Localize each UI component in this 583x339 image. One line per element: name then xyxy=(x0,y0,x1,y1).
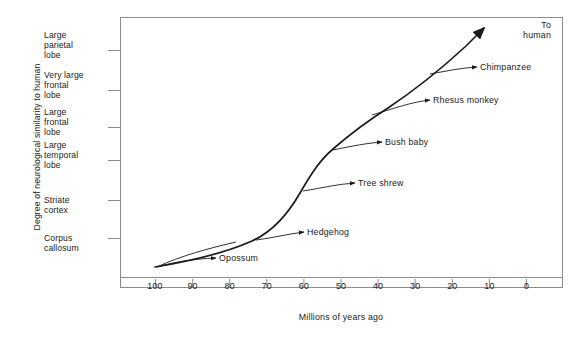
y-tick-label-line: Large xyxy=(44,140,110,150)
y-tick-label-line: lobe xyxy=(44,90,110,100)
y-tick-label-line: Striate xyxy=(44,195,110,205)
y-tick-label-very-large-frontal-lobe: Very large frontal lobe xyxy=(44,70,110,101)
x-tick-label-0: 0 xyxy=(512,281,542,291)
x-tick-label-50: 50 xyxy=(326,281,356,291)
annotation-label-tree-shrew: Tree shrew xyxy=(358,178,404,188)
x-tick-label-70: 70 xyxy=(252,281,282,291)
annotation-label-rhesus-monkey: Rhesus monkey xyxy=(433,95,499,105)
y-tick-label-line: lobe xyxy=(44,160,110,170)
leader-line-rhesus-monkey xyxy=(372,100,430,115)
y-tick-label-line: Corpus xyxy=(44,233,110,243)
x-tick-label-80: 80 xyxy=(215,281,245,291)
x-tick-label-100: 100 xyxy=(140,281,170,291)
y-tick-label-line: temporal xyxy=(44,150,110,160)
y-tick-label-line: callosum xyxy=(44,243,110,253)
y-tick-label-large-frontal-lobe: Large frontal lobe xyxy=(44,107,110,138)
y-tick-label-line: frontal xyxy=(44,117,110,127)
y-tick-label-large-parietal-lobe: Large parietal lobe xyxy=(44,30,110,61)
annotation-label-line: human xyxy=(503,30,551,40)
y-axis-title: Degree of neurological similarity to hum… xyxy=(32,22,42,272)
y-tick-label-line: lobe xyxy=(44,50,110,60)
annotation-label-chimpanzee: Chimpanzee xyxy=(480,62,531,72)
plot-frame xyxy=(121,18,563,278)
y-tick-label-striate-cortex: Striate cortex xyxy=(44,195,110,215)
x-tick-label-20: 20 xyxy=(437,281,467,291)
y-tick-label-line: cortex xyxy=(44,205,110,215)
x-tick-label-90: 90 xyxy=(178,281,208,291)
x-axis-title: Millions of years ago xyxy=(120,312,562,322)
y-tick-label-line: parietal xyxy=(44,40,110,50)
annotation-label-line: To xyxy=(503,20,551,30)
x-tick-label-30: 30 xyxy=(400,281,430,291)
annotation-label-bush-baby: Bush baby xyxy=(385,137,428,147)
y-tick-label-line: frontal xyxy=(44,80,110,90)
x-tick-label-60: 60 xyxy=(289,281,319,291)
y-tick-label-line: Large xyxy=(44,30,110,40)
annotation-label-opossum: Opossum xyxy=(219,253,258,263)
y-tick-label-large-temporal-lobe: Large temporal lobe xyxy=(44,140,110,171)
annotation-label-to-human: To human xyxy=(503,20,551,41)
leader-line-hedgehog xyxy=(256,232,304,240)
y-tick-label-line: Large xyxy=(44,107,110,117)
y-tick-label-corpus-callosum: Corpus callosum xyxy=(44,233,110,253)
leader-line-tree-shrew xyxy=(303,183,355,191)
x-tick-label-10: 10 xyxy=(474,281,504,291)
x-tick-label-40: 40 xyxy=(363,281,393,291)
annotation-label-hedgehog: Hedgehog xyxy=(307,227,349,237)
y-tick-label-line: lobe xyxy=(44,127,110,137)
y-tick-label-line: Very large xyxy=(44,70,110,80)
evolution-neurology-figure: Degree of neurological similarity to hum… xyxy=(0,0,583,339)
